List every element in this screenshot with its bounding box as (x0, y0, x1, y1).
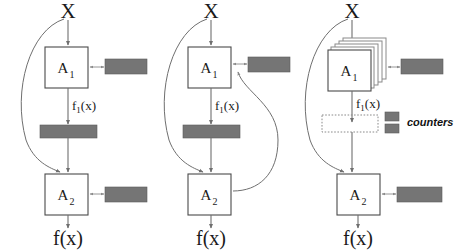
stage2-label: A (350, 187, 361, 203)
output-label: f(x) (196, 227, 226, 250)
stage1-label: A (341, 63, 352, 79)
output-label: f(x) (343, 227, 373, 250)
intermediate-label: f1(x) (356, 96, 380, 113)
diagram-root: X A 1 f1(x) A 2 f(x) X A 1 f1(x) A 2 f(x… (0, 0, 455, 250)
input-label: X (60, 0, 75, 23)
stage2-label: A (201, 187, 212, 203)
stage1-subscript: 1 (70, 69, 75, 80)
input-label: X (344, 0, 359, 23)
stage2-subscript: 2 (70, 196, 75, 207)
stage1-label: A (201, 60, 212, 76)
stage2-subscript: 2 (362, 196, 367, 207)
stage1-subscript: 1 (213, 69, 218, 80)
diagram-text-layer: X A 1 f1(x) A 2 f(x) X A 1 f1(x) A 2 f(x… (0, 0, 455, 250)
input-label: X (203, 0, 218, 23)
output-label: f(x) (53, 227, 83, 250)
intermediate-label: f1(x) (215, 98, 239, 115)
stage2-subscript: 2 (213, 196, 218, 207)
intermediate-label: f1(x) (72, 98, 96, 115)
stage2-label: A (58, 187, 69, 203)
stage1-label: A (58, 60, 69, 76)
legend-counters-label: counters (407, 116, 453, 128)
stage1-subscript: 1 (353, 72, 358, 83)
